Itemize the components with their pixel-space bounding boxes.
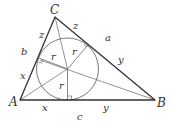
side-label-a: a bbox=[105, 32, 111, 43]
segment-label-x-left: x bbox=[20, 70, 26, 81]
segment-label-y-right: y bbox=[117, 54, 124, 65]
radius-label-left: r bbox=[51, 51, 57, 62]
vertex-label-c: C bbox=[50, 3, 59, 17]
segment-label-y-bottom: y bbox=[102, 102, 109, 113]
incircle-diagram: C A B a b c z z y x x y r r r bbox=[0, 0, 170, 124]
bisector-b bbox=[40, 60, 155, 100]
radius-label-lower: r bbox=[59, 80, 65, 91]
bisector-c bbox=[55, 17, 68, 69]
vertex-label-a: A bbox=[8, 95, 18, 109]
segment-label-z-right: z bbox=[72, 20, 79, 31]
vertex-label-b: B bbox=[156, 96, 166, 110]
segment-label-z-left: z bbox=[38, 29, 45, 40]
segment-label-x-bottom: x bbox=[42, 102, 48, 113]
side-label-c: c bbox=[77, 111, 83, 122]
radius-label-upper: r bbox=[72, 46, 78, 57]
radius-to-a bbox=[68, 46, 88, 69]
side-label-b: b bbox=[21, 46, 27, 57]
